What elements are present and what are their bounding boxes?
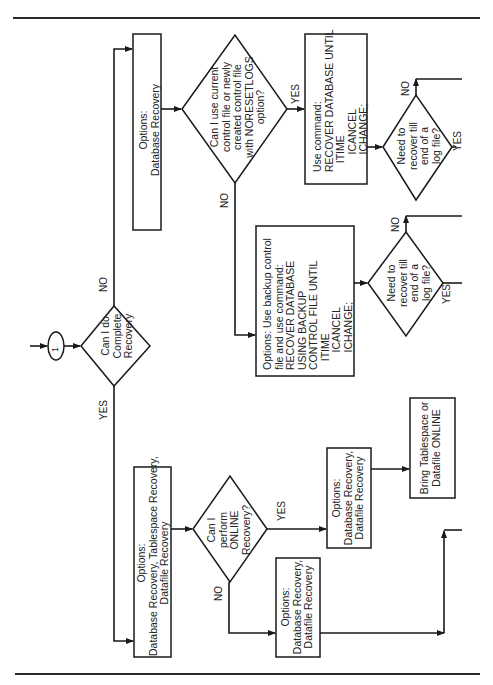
options-online-no-text: Options: Database Recovery, Datafile Rec…	[280, 559, 315, 655]
need-recover-2-text: Need to recover till end of a log file?	[386, 257, 432, 309]
backup-controlfile-text: Options: Use backup control file and use…	[262, 230, 354, 370]
bring-online-text: Bring Tablespace or Datafile ONLINE	[419, 400, 442, 496]
options-all-text: Options: Database Recovery, Tablespace R…	[136, 470, 171, 656]
need1-no-label: NO	[400, 81, 412, 96]
controlfile-no-connector	[235, 183, 255, 335]
need1-yes-label: YES	[452, 131, 464, 151]
need2-yes-label: YES	[441, 284, 453, 304]
controlfile-no-label: NO	[219, 193, 231, 208]
complete-yes-label: YES	[98, 400, 110, 420]
complete-yes-connector	[114, 386, 133, 641]
online-yes-label: YES	[276, 501, 288, 521]
use-command-text: Use command: RECOVER DATABASE UNTIL ITIM…	[312, 42, 370, 172]
controlfile-yes-label: YES	[290, 84, 302, 104]
options-online-yes-text: Options: Database Recovery, Datafile Rec…	[331, 450, 366, 546]
need-recover-1-text: Need to recover till end of a log file?	[396, 120, 442, 172]
connector-label: 1	[50, 347, 62, 352]
options-db-recovery-text: Options: Database Recovery	[138, 80, 161, 180]
online-no-label: NO	[213, 586, 225, 601]
complete-no-connector	[114, 49, 132, 306]
complete-no-label: NO	[98, 277, 110, 292]
controlfile-decision-text: Can I use current control file or newly …	[209, 52, 267, 162]
online-no-connector	[229, 582, 275, 633]
online-decision-text: Can I perform ONLINE Recovery?	[206, 500, 252, 560]
complete-recovery-text: Can I do Complete Recovery	[100, 308, 135, 364]
need2-no-label: NO	[390, 217, 402, 232]
